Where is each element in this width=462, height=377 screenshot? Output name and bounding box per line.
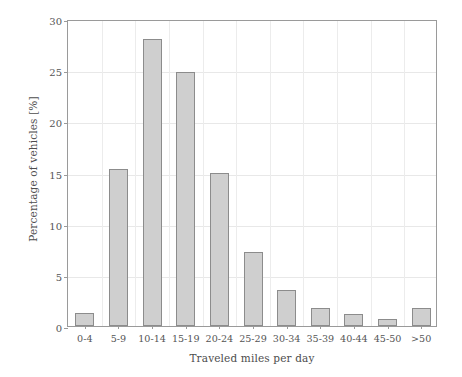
y-axis-tick-label: 5 [56,271,62,282]
x-axis-tick [388,326,389,329]
gridline-vertical [337,21,338,326]
x-axis-tick-label: 5-9 [111,333,126,344]
x-axis-tick-label: 15-19 [172,333,200,344]
bar [412,308,431,326]
x-axis-tick-label: 30-34 [273,333,301,344]
y-axis-tick [64,328,68,329]
bar [176,72,195,326]
gridline-vertical [169,21,170,326]
bar [210,173,229,327]
x-axis-tick [253,326,254,329]
y-axis-tick-label: 30 [49,16,62,27]
y-axis-tick [64,226,68,227]
x-axis-tick-label: 10-14 [138,333,166,344]
x-axis-tick-label: 25-29 [239,333,267,344]
x-axis-tick [186,326,187,329]
x-axis-tick-label: 35-39 [306,333,334,344]
y-axis-title: Percentage of vehicles [%] [27,69,39,269]
gridline-vertical [135,21,136,326]
gridline-vertical [270,21,271,326]
x-axis-tick [287,326,288,329]
y-axis-tick [64,277,68,278]
y-axis-tick [64,21,68,22]
gridline-vertical [371,21,372,326]
gridline-vertical [303,21,304,326]
x-axis-tick-label: 20-24 [206,333,234,344]
y-axis-tick [64,123,68,124]
bar [109,169,128,326]
x-axis-tick [320,326,321,329]
x-axis-tick-label: >50 [411,333,431,344]
y-axis-tick-label: 25 [49,67,62,78]
gridline-horizontal [68,123,436,124]
y-axis-tick-label: 0 [56,323,62,334]
y-axis-tick [64,72,68,73]
bar [311,308,330,326]
bar [277,290,296,326]
plot-area: 051015202530 0-45-910-1415-1920-2425-293… [67,20,437,327]
x-axis-tick-label: 40-44 [340,333,368,344]
gridline-vertical [102,21,103,326]
y-axis-tick [64,175,68,176]
bar [378,319,397,326]
gridline-vertical [404,21,405,326]
x-axis-tick-label: 45-50 [374,333,402,344]
x-axis-tick [421,326,422,329]
bar [244,252,263,326]
x-axis-tick [219,326,220,329]
x-axis-tick [354,326,355,329]
gridline-horizontal [68,72,436,73]
bar [344,314,363,326]
x-axis-title: Traveled miles per day [67,352,437,364]
x-axis-tick-label: 0-4 [77,333,92,344]
gridline-vertical [203,21,204,326]
bar [75,313,94,326]
bar-chart-figure: Percentage of vehicles [%] 051015202530 … [0,0,462,377]
bar [143,39,162,326]
y-axis-tick-label: 20 [49,118,62,129]
y-axis-tick-label: 15 [49,169,62,180]
y-axis-tick-label: 10 [49,220,62,231]
x-axis-tick [118,326,119,329]
x-axis-tick [152,326,153,329]
x-axis-tick [85,326,86,329]
gridline-vertical [236,21,237,326]
